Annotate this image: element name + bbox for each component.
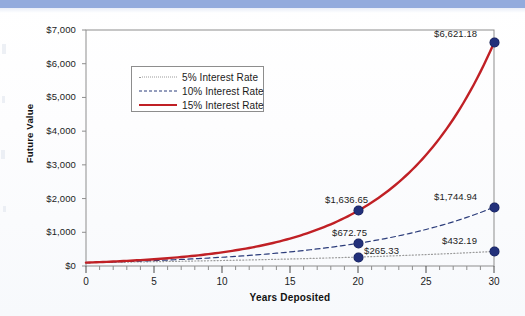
y-tick-label: $2,000 (0, 193, 76, 204)
y-axis-ticks (82, 30, 86, 266)
solid-line-swatch-icon (139, 99, 177, 111)
y-axis-title: Future Value (24, 94, 35, 174)
legend-item-10pct: 10% Interest Rate (132, 84, 265, 98)
chart-legend: 5% Interest Rate 10% Interest Rate 15% I… (131, 66, 264, 112)
x-tick-label: 20 (338, 276, 378, 287)
data-point-value-label: $1,636.65 (325, 194, 368, 205)
x-tick-label: 25 (406, 276, 446, 287)
y-tick-label: $1,000 (0, 226, 76, 237)
dashed-line-swatch-icon (139, 85, 177, 97)
y-tick-label: $4,000 (0, 125, 76, 136)
data-point-value-label: $6,621.18 (434, 28, 477, 39)
x-tick-label: 5 (134, 276, 174, 287)
y-tick-label: $7,000 (0, 24, 76, 35)
x-axis-title: Years Deposited (86, 292, 494, 303)
data-point-marker (490, 247, 499, 256)
legend-label-5pct: 5% Interest Rate (182, 72, 258, 83)
x-tick-label: 10 (202, 276, 242, 287)
x-tick-label: 0 (66, 276, 106, 287)
scan-artifact (2, 96, 5, 103)
scan-artifact (1, 150, 5, 159)
x-tick-label: 30 (474, 276, 514, 287)
y-tick-label: $0 (0, 260, 76, 271)
data-point-value-label: $1,744.94 (434, 191, 477, 202)
scan-artifact (3, 206, 6, 212)
legend-item-5pct: 5% Interest Rate (132, 70, 265, 84)
y-tick-label: $6,000 (0, 58, 76, 69)
data-point-value-label: $265.33 (364, 245, 399, 256)
legend-item-15pct: 15% Interest Rate (132, 98, 265, 112)
x-tick-label: 15 (270, 276, 310, 287)
data-point-value-label: $672.75 (332, 227, 367, 238)
legend-label-15pct: 15% Interest Rate (182, 100, 264, 111)
plot-canvas (0, 0, 525, 316)
data-point-marker (354, 253, 363, 262)
legend-label-10pct: 10% Interest Rate (182, 86, 264, 97)
x-axis-major-ticks (86, 266, 494, 273)
data-point-marker (490, 38, 499, 47)
y-tick-label: $5,000 (0, 91, 76, 102)
future-value-line-chart: $0$1,000$2,000$3,000$4,000$5,000$6,000$7… (0, 0, 525, 316)
data-point-marker (354, 239, 363, 248)
data-point-value-label: $432.19 (442, 235, 477, 246)
dotted-line-swatch-icon (139, 71, 177, 83)
scan-artifact (2, 44, 6, 54)
data-point-marker (490, 203, 499, 212)
data-point-marker (354, 206, 363, 215)
y-tick-label: $3,000 (0, 159, 76, 170)
